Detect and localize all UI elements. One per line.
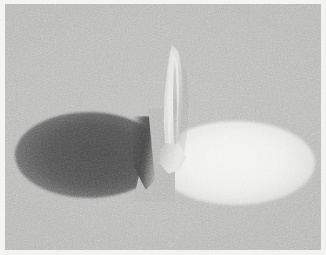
shadow-core: [37, 122, 145, 190]
photo-plate: [5, 4, 321, 250]
light-core: [181, 132, 293, 192]
photograph: [0, 0, 326, 255]
